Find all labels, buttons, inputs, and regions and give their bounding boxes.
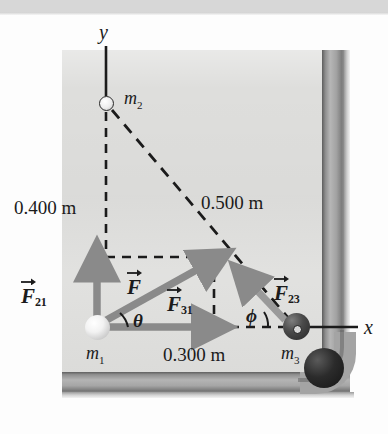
dimension-label-0300m: 0.300 m bbox=[163, 345, 225, 364]
dimension-label-0500m: 0.500 m bbox=[201, 193, 263, 212]
vector-label-F23-sub: 23 bbox=[288, 292, 300, 306]
angle-label-theta: θ bbox=[133, 311, 143, 330]
mass-label-m3-letter: m bbox=[281, 343, 294, 363]
vector-label-F31: F31 bbox=[167, 294, 193, 316]
mass-label-m3: m3 bbox=[281, 344, 300, 366]
mass-label-m1: m1 bbox=[86, 344, 105, 366]
physics-force-diagram: y x m2 m1 m3 0.400 m 0.500 m 0.300 m F21… bbox=[0, 0, 388, 434]
vector-overarrow-icon bbox=[21, 277, 36, 285]
mass-m3-highlight bbox=[293, 325, 302, 334]
mass-m2-marker bbox=[99, 96, 114, 111]
dimension-label-0400m: 0.400 m bbox=[14, 198, 76, 217]
mass-label-m1-sub: 1 bbox=[99, 354, 105, 366]
y-axis-label: y bbox=[99, 22, 108, 42]
mass-label-m2-letter: m bbox=[124, 88, 137, 108]
mass-label-m2-sub: 2 bbox=[137, 99, 143, 111]
angle-arc-phi bbox=[264, 312, 268, 327]
angle-label-phi: ϕ bbox=[246, 306, 257, 325]
vector-overarrow-icon bbox=[127, 268, 142, 276]
vector-label-F31-letter: F bbox=[167, 292, 181, 316]
mass-label-m3-sub: 3 bbox=[294, 354, 300, 366]
vector-label-F31-sub: 31 bbox=[181, 303, 193, 317]
vector-label-F23-letter: F bbox=[274, 281, 288, 305]
mass-label-m2: m2 bbox=[124, 89, 143, 111]
vector-arrow-F-resultant bbox=[103, 263, 209, 322]
mass-m1-sphere bbox=[85, 315, 110, 340]
vector-label-F-letter: F bbox=[127, 275, 141, 299]
vector-overarrow-icon bbox=[167, 285, 182, 293]
vector-overarrow-icon bbox=[274, 274, 289, 282]
vector-label-F23: F23 bbox=[274, 283, 300, 305]
x-axis-label: x bbox=[364, 317, 373, 337]
vector-label-F21-letter: F bbox=[21, 284, 35, 308]
vector-label-F: F bbox=[127, 277, 141, 299]
vector-label-F21-sub: 21 bbox=[35, 295, 47, 309]
mass-label-m1-letter: m bbox=[86, 343, 99, 363]
vector-label-F21: F21 bbox=[21, 286, 47, 308]
